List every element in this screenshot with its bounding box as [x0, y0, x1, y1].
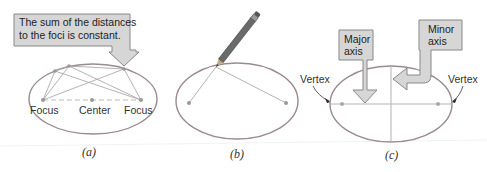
center-label: Center	[79, 104, 111, 116]
minor-axis-label-1: Minor	[428, 23, 455, 35]
major-axis-label-1: Major	[344, 33, 371, 45]
ellipse-diagram: Focus Center Focus The sum of the distan…	[0, 0, 487, 172]
right-vertex-label: Vertex	[448, 73, 479, 85]
caption-c: (c)	[385, 148, 398, 162]
caption-b: (b)	[230, 147, 244, 161]
left-focus-label: Focus	[30, 104, 59, 116]
panel-b: (b)	[176, 11, 298, 161]
minor-axis-label-2: axis	[428, 35, 447, 47]
pencil-icon	[214, 11, 261, 69]
callout-line-2: to the foci is constant.	[19, 29, 121, 41]
caption-a: (a)	[82, 145, 96, 159]
left-vertex-label: Vertex	[300, 73, 331, 85]
right-focus-label: Focus	[124, 104, 153, 116]
major-axis-label-2: axis	[344, 45, 363, 57]
ellipse-b	[176, 63, 298, 139]
callout-line-1: The sum of the distances	[19, 16, 136, 28]
panel-a: Focus Center Focus The sum of the distan…	[14, 14, 157, 159]
